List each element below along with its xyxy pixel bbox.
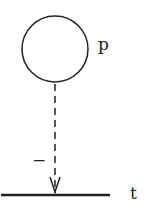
diagram-canvas: p − t <box>0 0 146 216</box>
node-p-circle <box>22 16 88 82</box>
edge-sign-label: − <box>32 150 46 170</box>
node-p-label: p <box>98 34 109 54</box>
node-t-label: t <box>130 183 137 203</box>
